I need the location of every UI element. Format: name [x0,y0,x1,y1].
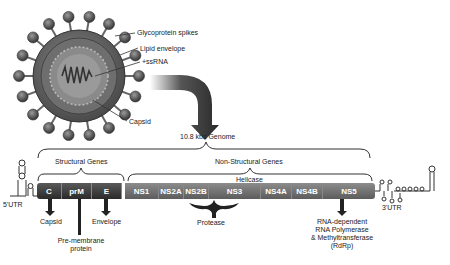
genome-title: 10.8 kbs Genome [180,133,235,140]
envelope-product-label: Envelope [92,218,121,225]
gene-ns2b: NS2B [184,183,209,199]
gene-ns1: NS1 [125,183,159,199]
label-ssrna: +ssRNA [142,58,168,65]
gene-ns3: NS3 [209,183,261,199]
gene-ns5: NS5 [323,183,375,199]
virion-illustration [14,11,145,140]
label-capsid-virion: Capsid [129,118,151,125]
premembrane-label-2: protein [57,245,105,252]
label-glycoprotein-spikes: Glycoprotein spikes [137,29,198,36]
rdrp-label-4: (RdRp) [300,242,384,249]
utr5-label: 5'UTR [3,201,23,208]
structural-genes-label: Structural Genes [55,158,108,165]
capsid-product-label: Capsid [40,218,62,225]
label-lipid-envelope: Lipid envelope [140,45,185,52]
structural-brace [38,168,124,181]
gene-ns2a: NS2A [159,183,184,199]
protease-label: Protease [197,219,225,226]
utr3-label: 3'UTR [382,204,402,211]
gene-ns4a: NS4A [261,183,292,199]
gene-prm: prM [62,183,92,199]
genome-brace [38,142,370,158]
gene-ns4b: NS4B [292,183,323,199]
nonstructural-genes-label: Non-Structural Genes [215,158,283,165]
gene-c: C [37,183,62,199]
helicase-label: Helicase [236,176,263,183]
premembrane-label-1: Pre-membrane [57,237,105,244]
utr3-stemloop [375,166,435,203]
rdrp-label-1: RNA-dependent [300,218,384,225]
protease-bracket [189,200,239,218]
utr5-stemloop [10,160,37,196]
gene-e: E [92,183,122,199]
rdrp-label-3: & Methyltransferase [300,234,384,241]
curved-arrow [150,75,219,140]
rdrp-label-2: RNA Polymerase [300,226,384,233]
